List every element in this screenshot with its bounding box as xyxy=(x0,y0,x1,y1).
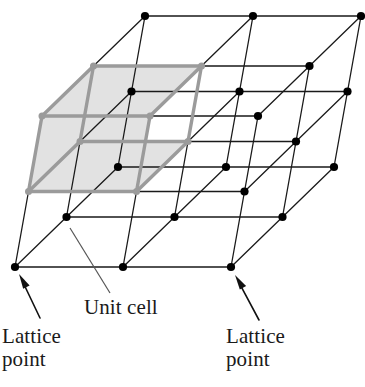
lattice-point xyxy=(240,187,248,195)
lattice-point xyxy=(127,87,135,95)
unit-cell-corner xyxy=(198,63,205,70)
arrow-head xyxy=(235,275,246,289)
lattice-point xyxy=(254,112,262,120)
lattice-point xyxy=(249,12,257,20)
lattice-point xyxy=(222,163,230,171)
arrow-shaft xyxy=(240,284,259,320)
lattice-point xyxy=(227,263,235,271)
lattice-figure: Unit cell Lattice point Lattice point xyxy=(0,0,365,387)
unit-cell-corner xyxy=(90,63,97,70)
arrow-head xyxy=(19,274,30,289)
lattice-point xyxy=(62,213,70,221)
lattice-point xyxy=(343,87,351,95)
lattice-point xyxy=(141,12,149,20)
lattice-point-left-label: Lattice point xyxy=(2,325,61,371)
lattice-point xyxy=(119,263,127,271)
unit-cell-corner xyxy=(185,138,192,145)
lattice-point xyxy=(278,213,286,221)
lattice-point xyxy=(114,163,122,171)
lattice-point xyxy=(305,62,313,70)
lattice-point xyxy=(170,213,178,221)
lattice-point-right-arrow xyxy=(235,275,259,320)
unit-cell-corner xyxy=(77,138,84,145)
unit-cell-corner xyxy=(39,113,46,120)
lattice-point xyxy=(330,163,338,171)
lattice-point xyxy=(292,137,300,145)
lattice-point xyxy=(235,87,243,95)
unit-cell-corner xyxy=(133,188,140,195)
lattice-point xyxy=(357,12,365,20)
unit-cell-corner xyxy=(25,188,32,195)
lattice-point-right-label: Lattice point xyxy=(226,325,285,371)
unit-cell-label: Unit cell xyxy=(84,296,158,319)
unit-cell-shaded-faces xyxy=(29,66,202,192)
unit-cell-corner xyxy=(147,113,154,120)
lattice-point xyxy=(11,263,19,271)
unit-cell-leader-line xyxy=(70,228,110,293)
lattice-point-left-arrow xyxy=(19,274,40,318)
arrow-shaft xyxy=(23,283,40,318)
